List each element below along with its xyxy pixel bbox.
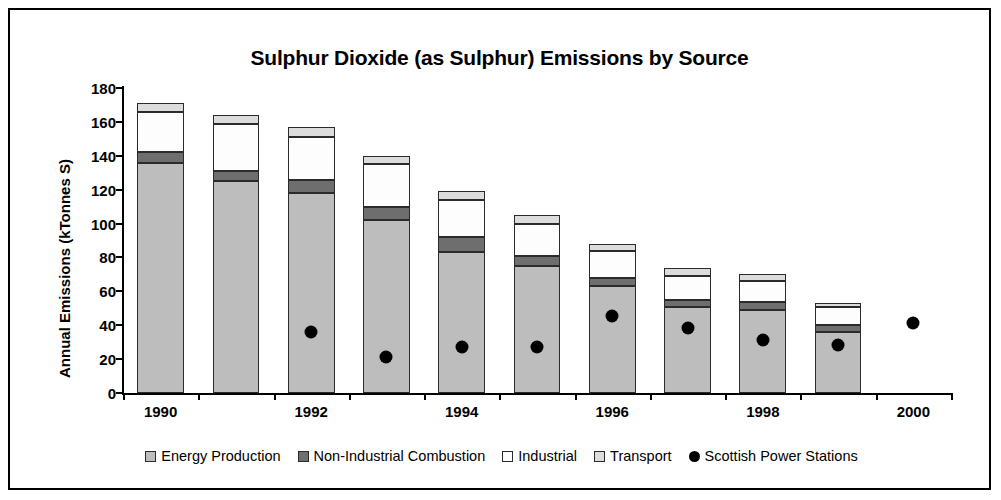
bar-1990 <box>137 103 184 393</box>
bar-segment-energy <box>438 252 485 393</box>
bar-segment-nonind <box>213 171 260 181</box>
y-axis-tick-mark <box>116 392 122 394</box>
y-axis-tick-label: 80 <box>50 249 116 266</box>
x-axis-tick-label: 1998 <box>723 403 803 420</box>
scatter-point-1997 <box>681 322 694 335</box>
bar-segment-nonind <box>739 302 786 310</box>
legend-item-label: Non-Industrial Combustion <box>314 448 486 464</box>
bar-segment-nonind <box>514 256 561 266</box>
x-axis-tick-label: 1992 <box>271 403 351 420</box>
bar-segment-indus <box>739 281 786 301</box>
legend-swatch-icon <box>298 451 309 462</box>
legend-dot-icon <box>689 451 700 462</box>
y-axis-tick-mark <box>116 223 122 225</box>
x-axis-tick-mark <box>650 393 652 400</box>
bar-segment-trans <box>363 156 410 164</box>
x-axis-tick-mark <box>499 393 501 400</box>
y-axis-tick-mark <box>116 87 122 89</box>
bar-1994 <box>438 191 485 393</box>
bar-segment-energy <box>589 286 636 393</box>
y-axis-tick-label: 160 <box>50 113 116 130</box>
x-axis-tick-mark <box>198 393 200 400</box>
legend-swatch-icon <box>502 451 513 462</box>
legend-item-label: Scottish Power Stations <box>705 448 858 464</box>
bar-segment-indus <box>288 137 335 179</box>
y-axis-tick-label: 120 <box>50 181 116 198</box>
y-axis-tick-label: 100 <box>50 215 116 232</box>
bar-segment-indus <box>438 200 485 237</box>
bar-segment-nonind <box>438 237 485 252</box>
chart-frame: Sulphur Dioxide (as Sulphur) Emissions b… <box>8 8 991 490</box>
scatter-point-1994 <box>455 340 468 353</box>
bar-segment-trans <box>815 303 862 306</box>
bar-segment-trans <box>438 191 485 199</box>
bar-segment-indus <box>213 124 260 171</box>
scatter-point-1992 <box>305 325 318 338</box>
bar-segment-nonind <box>664 300 711 307</box>
bar-1992 <box>288 127 335 393</box>
bar-segment-nonind <box>589 278 636 286</box>
bar-segment-energy <box>664 307 711 393</box>
scatter-point-1999 <box>832 339 845 352</box>
y-axis-tick-mark <box>116 189 122 191</box>
bar-segment-trans <box>213 115 260 123</box>
bar-segment-energy <box>739 310 786 393</box>
y-axis-tick-mark <box>116 256 122 258</box>
y-axis-tick-mark <box>116 324 122 326</box>
scatter-point-1996 <box>606 310 619 323</box>
legend-swatch-icon <box>594 451 605 462</box>
bar-segment-trans <box>739 274 786 281</box>
y-axis-tick-mark <box>116 290 122 292</box>
legend-item-indus: Industrial <box>502 448 577 464</box>
legend-item-label: Energy Production <box>161 448 280 464</box>
legend-swatch-icon <box>145 451 156 462</box>
bar-segment-trans <box>589 244 636 251</box>
bar-segment-energy <box>288 193 335 393</box>
x-axis-line <box>122 393 953 395</box>
bar-segment-nonind <box>288 180 335 194</box>
x-axis-tick-mark <box>951 393 953 400</box>
y-axis-tick-mark <box>116 121 122 123</box>
plot-area <box>123 88 951 393</box>
scatter-point-1993 <box>380 351 393 364</box>
bar-segment-trans <box>664 268 711 276</box>
y-axis-tick-label: 40 <box>50 317 116 334</box>
bar-segment-energy <box>213 181 260 393</box>
legend-item-dot: Scottish Power Stations <box>689 448 858 464</box>
bar-segment-nonind <box>363 207 410 221</box>
x-axis-tick-mark <box>349 393 351 400</box>
x-axis-tick-mark <box>876 393 878 400</box>
x-axis-tick-mark <box>274 393 276 400</box>
bar-segment-trans <box>137 103 184 111</box>
x-axis-tick-label: 1990 <box>121 403 201 420</box>
bar-segment-energy <box>514 266 561 393</box>
bar-segment-indus <box>815 307 862 326</box>
y-axis-tick-mark <box>116 155 122 157</box>
y-axis-tick-label: 20 <box>50 351 116 368</box>
bar-segment-energy <box>363 220 410 393</box>
x-axis-tick-label: 1994 <box>422 403 502 420</box>
legend-item-label: Transport <box>610 448 672 464</box>
chart-legend: Energy ProductionNon-Industrial Combusti… <box>10 448 993 464</box>
legend-item-label: Industrial <box>518 448 577 464</box>
x-axis-tick-label: 2000 <box>873 403 953 420</box>
scatter-point-2000 <box>907 317 920 330</box>
bar-1991 <box>213 115 260 393</box>
y-axis-tick-label: 60 <box>50 283 116 300</box>
scatter-point-1998 <box>756 334 769 347</box>
x-axis-tick-label: 1996 <box>572 403 652 420</box>
x-axis-tick-mark <box>123 393 125 400</box>
legend-item-energy: Energy Production <box>145 448 280 464</box>
bar-segment-indus <box>514 224 561 256</box>
legend-item-nonind: Non-Industrial Combustion <box>298 448 486 464</box>
x-axis-tick-mark <box>800 393 802 400</box>
bar-segment-nonind <box>137 152 184 162</box>
x-axis-tick-mark <box>725 393 727 400</box>
legend-item-trans: Transport <box>594 448 672 464</box>
bar-segment-indus <box>664 276 711 300</box>
x-axis-tick-mark <box>424 393 426 400</box>
x-axis-tick-mark <box>575 393 577 400</box>
scatter-point-1995 <box>531 340 544 353</box>
y-axis-tick-label: 140 <box>50 147 116 164</box>
y-axis-tick-label: 0 <box>50 385 116 402</box>
